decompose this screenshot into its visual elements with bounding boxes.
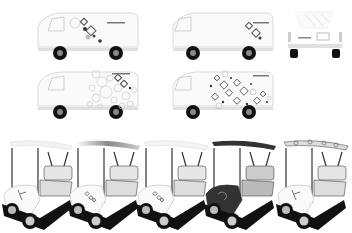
golf-cart-3 <box>136 138 211 233</box>
golf-cart-2 <box>68 138 143 233</box>
golf-cart-1 <box>0 138 75 233</box>
van-rear-view <box>285 8 345 60</box>
van-side-view-1 <box>30 5 145 62</box>
van-side-view-3 <box>30 62 145 122</box>
golf-cart-5 <box>276 138 352 233</box>
golf-cart-4 <box>204 138 279 233</box>
van-side-view-2 <box>165 5 280 62</box>
van-side-view-4 <box>165 62 280 122</box>
